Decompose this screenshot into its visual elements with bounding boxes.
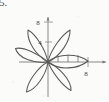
polar-rose-plot: 8 4 8 <box>0 0 109 102</box>
petal-left <box>16 48 49 62</box>
x-axis-label-8: 8 <box>84 70 88 78</box>
axes-group <box>19 17 106 97</box>
y-axis-label-4: 4 <box>38 39 42 47</box>
petal-lower-right <box>48 62 71 91</box>
petal-lower-left <box>27 62 49 92</box>
figure-container: 5. <box>0 0 109 102</box>
y-axis-label-8: 8 <box>36 19 40 27</box>
rose-curve-group <box>16 30 89 92</box>
y-axis-arrowhead <box>47 17 50 21</box>
petal-upper-right <box>48 30 70 62</box>
x-axis-arrowhead <box>103 61 107 64</box>
